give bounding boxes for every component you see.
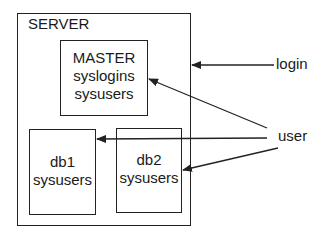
user-to-db1-arrow [97, 138, 267, 139]
user-to-db2-arrow [183, 148, 278, 170]
user-to-master-arrow [149, 79, 267, 128]
connector-arrows [0, 0, 325, 234]
